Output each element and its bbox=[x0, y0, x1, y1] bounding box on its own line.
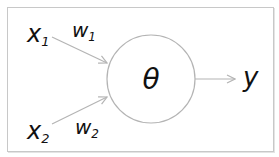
input-x1-label: x1 bbox=[26, 20, 49, 49]
node-theta-label: θ bbox=[142, 63, 159, 96]
weight-w1-label: w1 bbox=[72, 18, 96, 44]
perceptron-diagram: x1 w1 x2 w2 θ y bbox=[0, 0, 279, 157]
weight-w2-label: w2 bbox=[75, 115, 99, 141]
input-x2-label: x2 bbox=[26, 117, 49, 146]
output-y-label: y bbox=[242, 62, 259, 92]
